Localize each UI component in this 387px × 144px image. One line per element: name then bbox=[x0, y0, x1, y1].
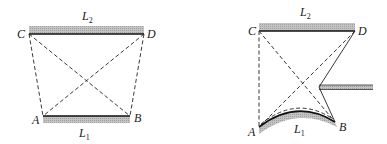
label-C: C bbox=[248, 24, 257, 38]
top-support-hatch bbox=[29, 26, 144, 34]
label-B: B bbox=[339, 120, 347, 134]
dashed-CA bbox=[29, 34, 43, 116]
top-support-hatch bbox=[259, 23, 355, 31]
figure-canvas: L2 L1 C D A B L2 L1 C D A B bbox=[0, 0, 387, 144]
bottom-support-hatch bbox=[43, 116, 130, 123]
label-A: A bbox=[31, 113, 40, 127]
label-L2: L2 bbox=[299, 5, 311, 21]
dashed-DB bbox=[130, 34, 144, 116]
label-L2: L2 bbox=[81, 9, 93, 25]
label-C: C bbox=[17, 27, 26, 41]
left-diagram: L2 L1 C D A B bbox=[17, 9, 156, 142]
label-B: B bbox=[134, 111, 142, 125]
dashed-CB bbox=[29, 34, 130, 116]
label-L1: L1 bbox=[78, 126, 90, 142]
right-diagram: L2 L1 C D A B bbox=[247, 5, 373, 139]
label-D: D bbox=[146, 27, 156, 41]
label-A: A bbox=[247, 125, 256, 139]
label-L1: L1 bbox=[293, 122, 305, 138]
line-D-notch bbox=[319, 31, 355, 87]
dashed-DA bbox=[43, 34, 144, 116]
side-rod bbox=[319, 85, 373, 90]
rod-hatch bbox=[319, 85, 373, 90]
label-D: D bbox=[357, 24, 367, 38]
